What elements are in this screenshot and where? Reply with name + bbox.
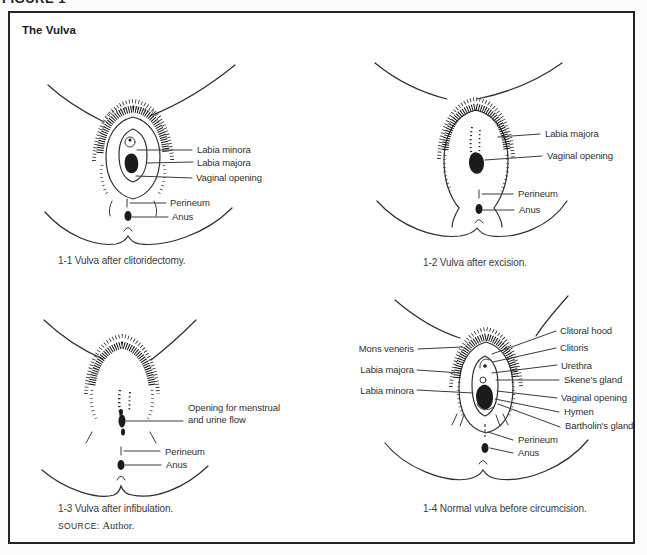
panel-1-2: Labia majora Vaginal opening Perineum An… [355,55,645,285]
anus-mark [118,460,125,470]
anatomy-label: Perineum [518,188,558,199]
figure-title: The Vulva [22,24,76,36]
anatomy-label: Opening for menstrual and urine flow [188,402,296,425]
figure-number-text: FIGURE 1 [2,0,112,6]
pubic-hair [439,99,513,191]
anatomy-label: Urethra [561,360,592,371]
anatomy-label: Clitoris [560,342,588,353]
anatomy-label: Vaginal opening [561,392,627,403]
anatomy-label: Anus [518,447,539,458]
urethra-circle [480,377,486,383]
anatomy-label: Hymen [564,406,594,417]
anatomy-label: Clitoral hood [560,325,612,336]
source-label: SOURCE: [58,521,100,531]
source-value: Author. [103,520,135,531]
panel-1-3: Opening for menstrual and urine flow Per… [40,290,340,545]
anatomy-label: Anus [519,204,540,215]
opening-blob [119,415,126,428]
anus-mark [482,443,489,453]
anatomy-label: Labia minora [354,385,414,396]
panel-caption: 1-4 Normal vulva before circumcision. [423,503,587,514]
clitoris-remnant-mark [129,139,132,142]
panel-1-4: Clitoral hood Clitoris Urethra Skene's g… [340,290,645,545]
source-line: SOURCE:Author. [58,520,134,531]
panel-caption: 1-1 Vulva after clitoridectomy. [58,255,186,266]
figure-number-clipped: FIGURE 1 [2,0,112,6]
anatomy-label: Mons veneris [356,343,414,354]
anus-mark [125,211,132,221]
drawing-vulva-after-excision [355,55,645,285]
anatomy-label: Vaginal opening [547,150,613,161]
anatomy-label: Labia majora [354,364,414,375]
anatomy-label: Vaginal opening [196,172,262,183]
document-page: FIGURE 1 The Vulva [0,0,647,555]
creases [452,414,508,426]
panel-1-1: Labia minora Labia majora Vaginal openin… [40,55,340,285]
panel-caption: 1-2 Vulva after excision. [423,257,527,268]
creases [86,432,156,443]
anatomy-label: Skene's gland [564,374,622,385]
pubic-hair [86,336,158,420]
anatomy-label: Perineum [518,434,558,445]
vaginal-opening-blob [469,152,484,174]
panel-caption: 1-3 Vulva after infibulation. [58,503,173,514]
anatomy-label: Perineum [165,446,205,457]
anus-mark [476,204,483,214]
anatomy-label: Labia majora [197,157,251,168]
anatomy-label: Labia minora [197,144,251,155]
infibulation-opening [119,409,126,436]
anatomy-label: Anus [166,459,187,470]
vaginal-opening-blob [125,153,139,173]
clitoris-mark [483,364,487,368]
clitoral-structures [480,359,489,383]
pubic-hair [94,101,172,195]
anatomy-label: Labia majora [545,128,599,139]
anatomy-label: Anus [172,211,193,222]
vaginal-opening-blob2 [131,163,137,171]
anatomy-label: Bartholin's gland [565,420,633,431]
drawing-vulva-after-clitoridectomy [40,55,340,285]
anatomy-label: Perineum [170,197,210,208]
